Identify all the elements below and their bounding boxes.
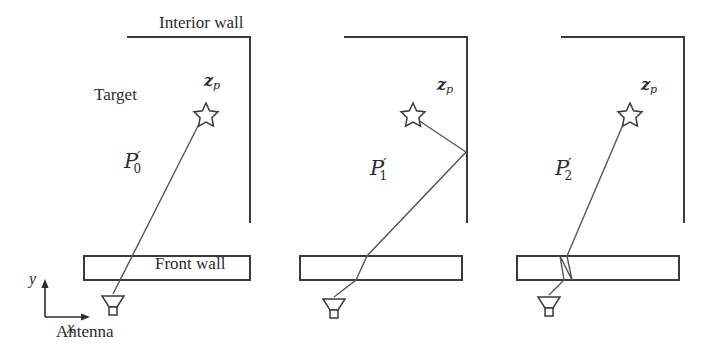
front-wall-panel-refracted [517,256,679,280]
target-point-symbol: z [641,75,650,94]
path-label-panel-direct: P′0 [124,150,141,175]
target-point-label-panel-reflected: zp [437,77,453,95]
path-label-panel-reflected: P′1 [370,157,387,182]
target-point-subscript: p [213,79,220,92]
target-star-icon-panel-refracted [618,103,642,126]
target-point-label-panel-refracted: zp [641,77,657,95]
target-point-subscript: p [650,83,657,96]
interior-wall-label: Interior wall [159,14,244,31]
antenna-icon-panel-reflected [323,299,345,318]
antenna-label: Antenna [56,323,114,340]
target-star-icon-panel-direct [194,103,218,126]
target-point-symbol: z [437,75,446,94]
panel-refracted [517,37,684,316]
axis-x-label: x [67,320,74,336]
target-point-symbol: z [204,71,213,90]
diagram-canvas [0,0,717,358]
axis-y-label: y [29,271,36,287]
coordinate-axes [41,279,90,321]
antenna-icon-panel-refracted [538,297,560,316]
front-wall-label: Front wall [155,255,225,272]
target-label: Target [94,86,137,103]
path-label-panel-refracted: P′2 [555,157,572,182]
path-subscript: 0 [134,162,142,176]
interior-wall-panel-direct [128,37,250,222]
front-wall-panel-reflected [300,256,462,280]
figure-container: Interior wall Front wall Target Antenna … [0,0,717,358]
target-point-label-panel-direct: zp [204,73,220,91]
interior-wall-panel-refracted [562,37,684,222]
target-point-subscript: p [446,83,453,96]
interior-wall-panel-reflected [345,37,467,222]
path-subscript: 2 [565,169,573,183]
antenna-icon-panel-direct [102,296,124,315]
path-subscript: 1 [380,169,388,183]
